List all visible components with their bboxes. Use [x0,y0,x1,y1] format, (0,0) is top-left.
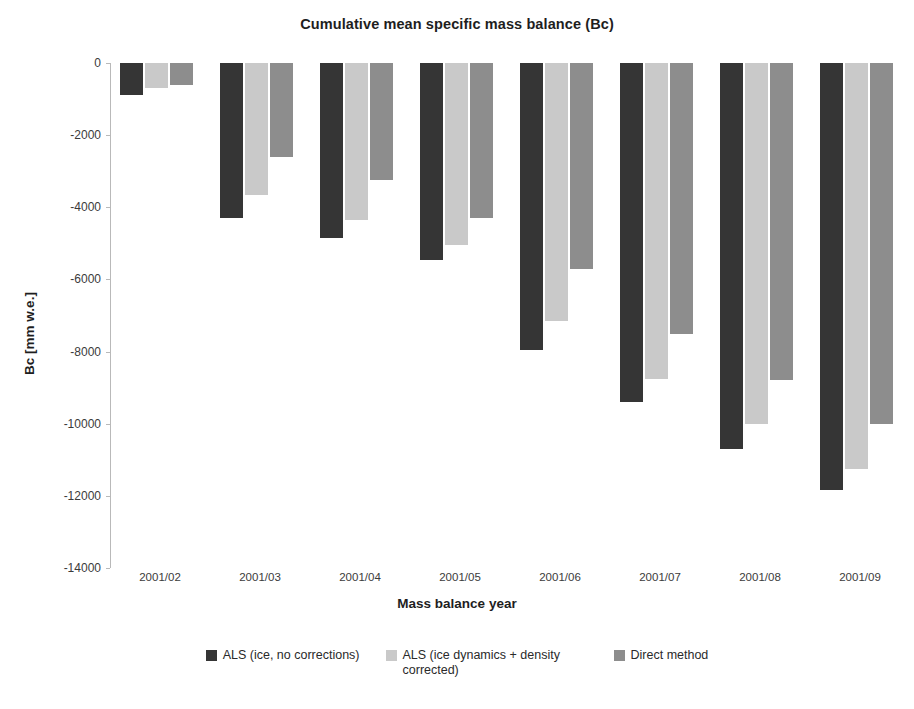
bar-group: 2001/05 [410,63,510,568]
bar[interactable] [445,63,468,245]
legend-swatch-icon [206,650,217,661]
x-tick-label: 2001/03 [210,571,310,583]
legend-label: ALS (ice dynamics + density corrected) [403,648,588,678]
y-tick-label: 0 [94,56,101,70]
legend-label: Direct method [631,648,709,663]
bar[interactable] [220,63,243,218]
y-axis-title-text: Bc [mm w.e.] [22,292,37,375]
bar[interactable] [270,63,293,157]
bar[interactable] [520,63,543,350]
bar[interactable] [645,63,668,379]
y-tick-label: -12000 [64,489,101,503]
y-tick-label: -6000 [70,272,101,286]
bar-group: 2001/03 [210,63,310,568]
x-tick-label: 2001/09 [810,571,910,583]
y-tick-label: -14000 [64,561,101,575]
bar-group: 2001/06 [510,63,610,568]
bar[interactable] [670,63,693,334]
bar[interactable] [320,63,343,238]
x-tick-label: 2001/07 [610,571,710,583]
y-tick-label: -2000 [70,128,101,142]
legend-swatch-icon [614,650,625,661]
plot-area: 0-2000-4000-6000-8000-10000-12000-14000 … [110,63,910,568]
chart-title: Cumulative mean specific mass balance (B… [0,16,914,32]
bar[interactable] [720,63,743,449]
y-tick-label: -4000 [70,200,101,214]
x-axis-title: Mass balance year [0,596,914,611]
bar[interactable] [370,63,393,180]
bar-group: 2001/04 [310,63,410,568]
bar[interactable] [145,63,168,88]
bar[interactable] [770,63,793,380]
bar[interactable] [870,63,893,424]
bar[interactable] [745,63,768,424]
y-tick-mark [106,568,110,569]
bar[interactable] [120,63,143,95]
bar-group: 2001/02 [110,63,210,568]
bar[interactable] [620,63,643,402]
y-tick-label: -8000 [70,345,101,359]
bar[interactable] [170,63,193,85]
x-tick-label: 2001/04 [310,571,410,583]
legend-label: ALS (ice, no corrections) [223,648,360,663]
bar[interactable] [845,63,868,469]
legend-swatch-icon [386,650,397,661]
bar[interactable] [470,63,493,218]
chart-figure: Cumulative mean specific mass balance (B… [0,0,914,709]
bar-group: 2001/09 [810,63,910,568]
y-axis-title: Bc [mm w.e.] [14,238,44,428]
bar[interactable] [245,63,268,195]
legend-item[interactable]: ALS (ice, no corrections) [206,648,360,663]
bars-layer: 2001/022001/032001/042001/052001/062001/… [110,63,910,568]
bar[interactable] [420,63,443,260]
chart-legend: ALS (ice, no corrections)ALS (ice dynami… [0,648,914,678]
bar-group: 2001/07 [610,63,710,568]
bar[interactable] [820,63,843,490]
bar[interactable] [570,63,593,269]
x-tick-label: 2001/06 [510,571,610,583]
x-tick-label: 2001/02 [110,571,210,583]
y-tick-label: -10000 [64,417,101,431]
x-tick-label: 2001/08 [710,571,810,583]
bar-group: 2001/08 [710,63,810,568]
bar[interactable] [345,63,368,220]
legend-item[interactable]: ALS (ice dynamics + density corrected) [386,648,588,678]
legend-item[interactable]: Direct method [614,648,709,663]
x-tick-label: 2001/05 [410,571,510,583]
bar[interactable] [545,63,568,321]
